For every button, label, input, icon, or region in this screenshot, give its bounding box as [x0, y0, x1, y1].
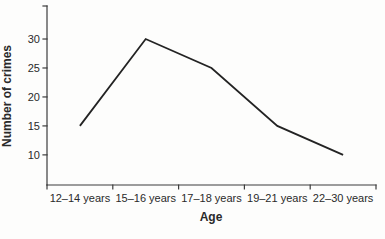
- x-tick-label: 19–21 years: [247, 192, 308, 204]
- crime-trend-line: [80, 39, 343, 155]
- plot-area: 101520253012–14 years15–16 years17–18 ye…: [28, 6, 376, 204]
- x-tick-label: 17–18 years: [181, 192, 242, 204]
- x-axis-title: Age: [200, 210, 223, 224]
- y-axis-title: Number of crimes: [0, 45, 14, 147]
- y-tick-label: 30: [28, 33, 40, 45]
- x-tick-label: 15–16 years: [115, 192, 176, 204]
- y-tick-label: 25: [28, 62, 40, 74]
- y-tick-label: 10: [28, 149, 40, 161]
- crimes-by-age-line-chart: Number of crimes Age 101520253012–14 yea…: [0, 0, 385, 239]
- y-tick-label: 20: [28, 91, 40, 103]
- y-tick-label: 15: [28, 120, 40, 132]
- x-tick-label: 22–30 years: [313, 192, 374, 204]
- crimes-by-age-chart-page: Number of crimes Age 101520253012–14 yea…: [0, 0, 385, 239]
- x-tick-label: 12–14 years: [50, 192, 111, 204]
